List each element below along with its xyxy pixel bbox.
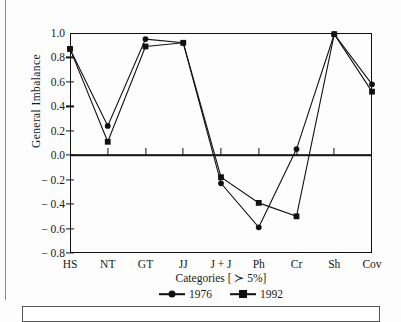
zero-axis-tick-mark [334, 148, 335, 155]
series-line-1992 [70, 34, 372, 216]
data-point-square-marker [369, 89, 375, 95]
legend-item-1992: 1992 [230, 288, 283, 300]
y-axis-tick-label: 0.2 [25, 125, 65, 137]
data-point-square-marker [105, 139, 111, 145]
data-point-square-marker [294, 213, 300, 219]
data-point-square-marker [331, 31, 337, 37]
y-axis-tick-mark [66, 252, 74, 253]
zero-axis-tick-mark [107, 148, 108, 155]
data-point-square-marker [256, 200, 262, 206]
caption-frame [22, 306, 380, 322]
legend-label: 1992 [260, 288, 283, 300]
x-axis-tick-label: HS [63, 258, 78, 270]
data-point-circle-marker [143, 36, 149, 42]
zero-axis-tick-mark [183, 148, 184, 155]
y-axis-tick-label: − 0.6 [25, 223, 65, 235]
y-axis-tick-label: − 0.4 [25, 198, 65, 210]
y-axis-tick-label: 0.8 [25, 51, 65, 63]
data-point-square-marker [143, 44, 149, 50]
y-axis-tick-label: 0.6 [25, 76, 65, 88]
y-axis-tick-label: 1.0 [25, 27, 65, 39]
square-marker [230, 289, 256, 299]
y-axis-tick-mark [66, 179, 74, 180]
y-axis-tick-mark [66, 57, 74, 58]
data-point-circle-marker [218, 180, 224, 186]
chart-figure: General Imbalance 1.00.80.60.40.20.0− 0.… [0, 0, 401, 300]
data-point-circle-marker [369, 81, 375, 87]
series-line-1976 [70, 34, 372, 227]
data-point-circle-marker [256, 224, 262, 230]
zero-axis-tick-mark [220, 148, 221, 155]
x-axis-tick-label: Ph [253, 258, 265, 270]
legend-label: 1976 [189, 288, 212, 300]
data-point-square-marker [218, 174, 224, 180]
zero-axis-tick-mark [258, 148, 259, 155]
x-axis-tick-label: NT [100, 258, 115, 270]
circle-marker-glyph [169, 291, 176, 298]
x-axis-tick-label: Sh [328, 258, 340, 270]
x-axis-title: Categories [ ≻ 5%] [70, 271, 372, 285]
y-axis-tick-label: 0.4 [25, 100, 65, 112]
data-point-square-marker [67, 46, 73, 52]
data-point-circle-marker [105, 123, 111, 129]
y-axis-tick-mark [66, 204, 74, 205]
legend-item-1976: 1976 [159, 288, 212, 300]
figure-page: General Imbalance 1.00.80.60.40.20.0− 0.… [0, 0, 401, 322]
y-axis-tick-label: − 0.2 [25, 174, 65, 186]
y-axis-tick-label: 0.0 [25, 149, 65, 161]
x-axis-tick-label: JJ [179, 258, 188, 270]
y-axis-tick-mark [66, 228, 74, 229]
plot-area: 1.00.80.60.40.20.0− 0.2− 0.4− 0.6− 0.8HS… [70, 33, 372, 253]
square-marker-glyph [239, 290, 247, 298]
chart-legend: 19761992 [70, 288, 372, 300]
x-axis-tick-label: J + J [210, 258, 231, 270]
zero-axis-tick-mark [296, 148, 297, 155]
y-axis-tick-mark [66, 106, 74, 107]
y-axis-tick-label: − 0.8 [25, 247, 65, 259]
data-point-square-marker [180, 40, 186, 46]
series-layer [70, 33, 372, 253]
y-axis-tick-mark [66, 130, 74, 131]
circle-marker [159, 289, 185, 299]
x-axis-tick-label: Cr [291, 258, 303, 270]
x-axis-tick-label: GT [138, 258, 153, 270]
x-axis-tick-label: Cov [362, 258, 381, 270]
y-axis-tick-mark [66, 81, 74, 82]
zero-axis-tick-mark [145, 148, 146, 155]
